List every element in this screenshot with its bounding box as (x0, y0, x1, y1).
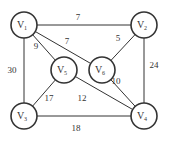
edge-weight-label: 17 (45, 93, 55, 103)
edge-weight-label: 7 (65, 36, 70, 46)
edge-weight-label: 5 (116, 33, 121, 43)
node-v6: V6 (89, 57, 115, 83)
node-v2: V2 (131, 12, 157, 38)
edge-weight-label: 9 (34, 41, 39, 51)
nodes: V1V2V5V6V3V4 (11, 12, 157, 129)
edge-weight-label: 18 (72, 123, 82, 133)
edge-weight-label: 30 (8, 65, 18, 75)
edge-weight-label: 24 (150, 60, 160, 70)
edge-weight-label: 7 (76, 12, 81, 22)
node-v5: V5 (51, 57, 77, 83)
node-v3: V3 (11, 103, 37, 129)
edge-weight-label: 12 (78, 93, 87, 103)
node-v4: V4 (131, 103, 157, 129)
weighted-graph: 7793052410121718 V1V2V5V6V3V4 (0, 0, 169, 142)
node-v1: V1 (11, 12, 37, 38)
